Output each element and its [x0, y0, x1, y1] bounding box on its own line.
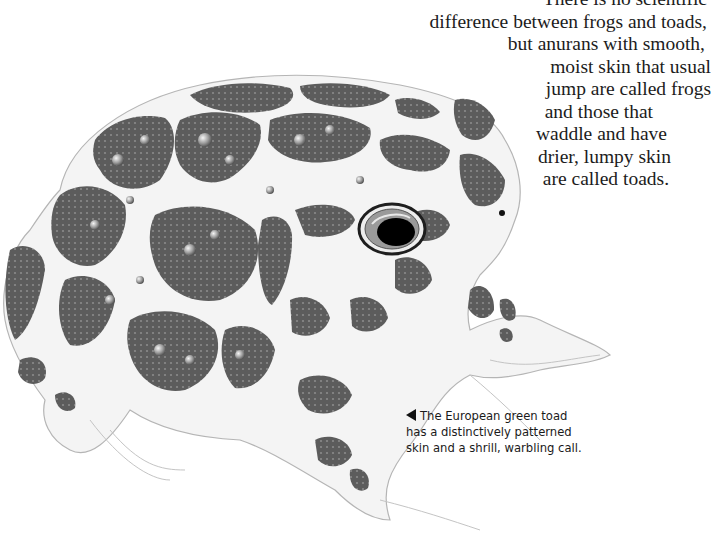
- toad-eye: [359, 204, 425, 254]
- body-text-line: but anurans with smooth,: [305, 33, 705, 56]
- body-text-line: drier, lumpy skin: [271, 146, 671, 169]
- caption-line: has a distinctively patterned: [406, 424, 616, 440]
- body-text-line: and those that: [253, 101, 653, 124]
- body-text-line: jump are called frogs: [311, 78, 711, 101]
- caption-pointer-icon: [406, 409, 416, 421]
- caption-line: The European green toad: [420, 409, 567, 423]
- nostril: [499, 210, 505, 216]
- body-text-line: waddle and have: [267, 123, 667, 146]
- body-text: There is no scientific difference betwee…: [307, 0, 707, 191]
- body-text-line: difference between frogs and toads,: [307, 11, 707, 34]
- image-caption: The European green toad has a distinctiv…: [406, 408, 616, 456]
- body-text-line: moist skin that usual: [311, 56, 711, 79]
- body-text-line: are called toads.: [269, 168, 669, 191]
- caption-line: skin and a shrill, warbling call.: [406, 440, 616, 456]
- body-text-line: There is no scientific: [307, 0, 707, 11]
